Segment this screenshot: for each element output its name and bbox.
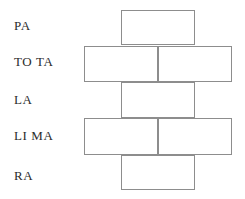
block-group-to-ta [84, 46, 232, 82]
diagram-row: LA [0, 82, 245, 118]
row-label-pa: PA [14, 19, 31, 32]
block-cell[interactable] [121, 82, 195, 118]
row-label-ra: RA [14, 169, 33, 182]
block-group-pa [121, 10, 195, 45]
block-cell[interactable] [84, 46, 158, 82]
diagram-row: PA [0, 0, 245, 44]
block-cell[interactable] [158, 46, 232, 82]
block-group-li-ma [84, 118, 232, 155]
diagram-row: TO TA [0, 44, 245, 82]
diagram-row: RA [0, 155, 245, 199]
row-label-la: LA [14, 93, 33, 106]
block-group-ra [121, 155, 195, 190]
diagram-row: LI MA [0, 118, 245, 155]
syllable-diagram-page: PA TO TA LA LI MA RA [0, 0, 245, 199]
block-group-la [121, 82, 195, 118]
block-cell[interactable] [84, 118, 158, 155]
row-label-to-ta: TO TA [14, 55, 53, 68]
row-label-li-ma: LI MA [14, 129, 53, 142]
block-cell[interactable] [121, 10, 195, 45]
block-cell[interactable] [121, 155, 195, 190]
block-cell[interactable] [158, 118, 232, 155]
